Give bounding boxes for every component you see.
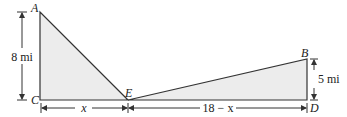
dimension-8mi: 8 mi <box>11 12 33 100</box>
point-label-a: A <box>30 1 39 15</box>
point-label-d: D <box>309 101 319 115</box>
dimension-18-minus-x: 18 − x <box>129 101 307 115</box>
label-5mi: 5 mi <box>318 72 340 86</box>
point-label-b: B <box>301 46 309 60</box>
dimension-x: x <box>41 101 128 115</box>
label-18-minus-x: 18 − x <box>203 101 234 115</box>
triangle-ace <box>40 12 128 100</box>
label-x: x <box>80 101 87 115</box>
point-label-c: C <box>31 93 40 107</box>
label-8mi: 8 mi <box>11 50 33 64</box>
triangle-edb <box>128 59 307 100</box>
triangle-diagram: 8 mi 5 mi x 18 − x A C E B D <box>0 0 347 117</box>
point-label-e: E <box>124 86 133 100</box>
dimension-5mi: 5 mi <box>310 59 340 100</box>
